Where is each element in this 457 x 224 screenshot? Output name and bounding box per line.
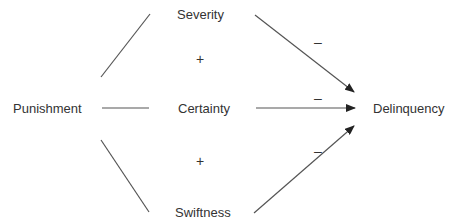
node-certainty: Certainty (178, 101, 230, 116)
arrow-swiftness-delinquency (254, 126, 354, 213)
edge-punishment-severity (101, 14, 150, 77)
arrow-severity-delinquency (255, 15, 354, 92)
minus-sign-certainty: – (314, 91, 322, 105)
minus-sign-severity: – (314, 35, 322, 49)
node-swiftness: Swiftness (175, 205, 231, 220)
edge-punishment-swiftness (101, 140, 149, 212)
plus-sign-upper: + (196, 52, 204, 66)
plus-sign-lower: + (196, 154, 204, 168)
node-delinquency: Delinquency (373, 101, 445, 116)
minus-sign-swiftness: – (314, 144, 322, 158)
node-severity: Severity (177, 7, 224, 22)
node-punishment: Punishment (13, 101, 82, 116)
